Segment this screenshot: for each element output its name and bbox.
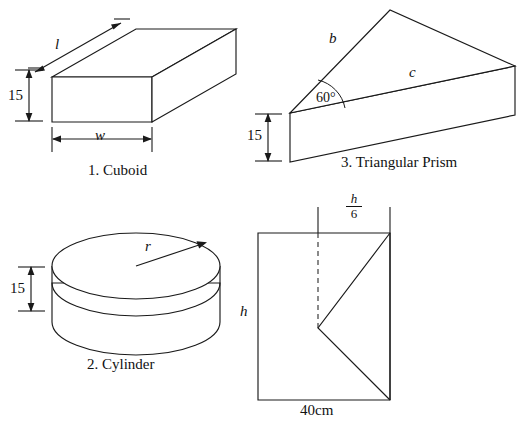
notched-rect-height-label: h	[240, 304, 248, 319]
notched-rect-fraction-label: h 6	[345, 192, 363, 220]
notched-rect-base-label: 40cm	[300, 403, 333, 418]
cuboid-caption: 1. Cuboid	[88, 163, 147, 178]
prism-angle-label: 60°	[316, 91, 336, 105]
cylinder-height-label: 15	[10, 281, 25, 296]
prism-caption: 3. Triangular Prism	[341, 155, 457, 170]
cylinder-caption: 2. Cylinder	[87, 357, 155, 372]
cuboid-length-label: l	[55, 37, 59, 52]
prism-side-c-label: c	[409, 65, 416, 80]
fraction-numerator: h	[345, 192, 363, 206]
prism-side-b-label: b	[329, 31, 337, 46]
triangular-prism-figure	[255, 10, 515, 162]
figures-drawing-layer	[0, 0, 532, 422]
cuboid-height-label: 15	[8, 88, 23, 103]
fraction-denominator: 6	[345, 207, 363, 221]
cuboid-front-face	[52, 77, 152, 122]
cuboid-width-label: w	[95, 128, 105, 143]
geometry-worksheet-figures: l 15 w 1. Cuboid r 15 2. Cylinder b c 60…	[0, 0, 532, 422]
cylinder-radius-label: r	[145, 239, 151, 254]
notched-rectangle-figure	[258, 207, 390, 400]
cuboid-figure	[15, 19, 236, 152]
notched-rect-outline	[258, 233, 390, 400]
prism-height-label: 15	[247, 128, 262, 143]
cylinder-figure	[18, 233, 220, 355]
